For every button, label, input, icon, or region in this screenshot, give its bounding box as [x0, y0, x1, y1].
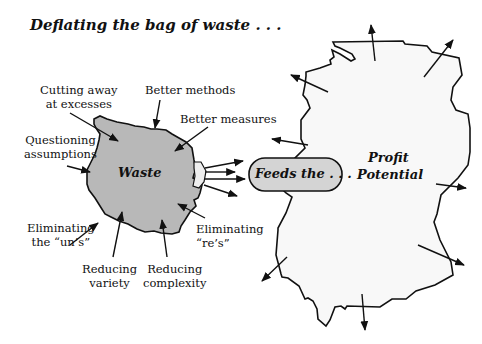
label-line: the “un’s”	[27, 235, 95, 249]
waste-leak	[193, 162, 206, 188]
label-better-measures: Better measures	[180, 112, 277, 126]
label-line: assumptions	[24, 147, 97, 161]
label-line: Cutting away	[40, 83, 118, 97]
waste-label: Waste	[118, 165, 162, 181]
label-line: “re’s”	[196, 236, 264, 250]
label-line: Eliminating	[27, 221, 95, 235]
feeds-label: Feeds the . . .	[255, 166, 352, 182]
label-line: Reducing	[82, 262, 137, 276]
feed-arrows	[204, 161, 245, 196]
label-reducing-complexity: Reducing complexity	[143, 262, 206, 290]
label-line: variety	[82, 276, 137, 290]
label-questioning: Questioning assumptions	[24, 133, 97, 161]
label-cutting-away: Cutting away at excesses	[40, 83, 118, 111]
label-line: Questioning	[24, 133, 97, 147]
label-line: Reducing	[143, 262, 206, 276]
label-line: at excesses	[40, 97, 118, 111]
label-eliminating-res: Eliminating “re’s”	[196, 222, 264, 250]
label-eliminating-uns: Eliminating the “un’s”	[27, 221, 95, 249]
profit-label-line1: Profit	[368, 150, 409, 166]
label-reducing-variety: Reducing variety	[82, 262, 137, 290]
profit-label-line2: Potential	[357, 167, 423, 183]
label-better-methods: Better methods	[145, 83, 235, 97]
label-line: Eliminating	[196, 222, 264, 236]
label-line: complexity	[143, 276, 206, 290]
